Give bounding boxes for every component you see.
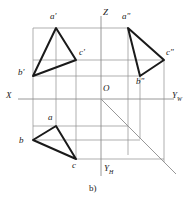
vertex-label-b-prime: b'	[18, 68, 24, 77]
vertex-label-b: b	[19, 136, 24, 145]
frontal-triangle	[33, 28, 76, 76]
vertex-label-a: a	[48, 113, 53, 122]
axis-label-yh: YH	[104, 164, 113, 175]
vertex-label-a-double-prime: a"	[122, 12, 130, 21]
axis-label-origin: O	[103, 84, 110, 93]
y-diagonal-axis	[101, 99, 176, 174]
horizontal-triangle	[33, 126, 76, 159]
figure-caption: b)	[89, 183, 97, 193]
vertex-label-b-double-prime: b"	[136, 77, 144, 86]
vertex-label-a-prime: a'	[50, 12, 56, 21]
axis-label-z: Z	[103, 8, 108, 17]
vertex-label-c-prime: c'	[79, 48, 85, 57]
axis-label-x: X	[6, 91, 12, 100]
projection-drawing-svg	[0, 0, 192, 201]
vertex-label-c: c	[72, 161, 76, 170]
profile-triangle	[128, 28, 164, 76]
axis-label-yh-subscript: H	[109, 169, 113, 175]
vertex-label-c-double-prime: c"	[166, 48, 174, 57]
coordinate-axes	[18, 16, 176, 176]
descriptive-geometry-figure: a' b' c' a" b" c" a b c X Z O YW YH b)	[0, 0, 192, 201]
axis-label-yw-subscript: W	[177, 96, 182, 102]
axis-label-yw: YW	[172, 91, 182, 102]
